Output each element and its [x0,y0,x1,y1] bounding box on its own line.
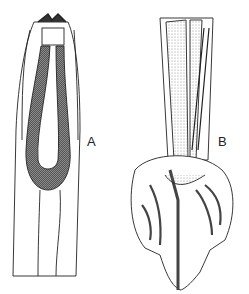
panel-label-b: B [218,134,227,149]
panel-label-a: A [87,134,96,149]
panel-b-drawing [131,18,233,290]
drawing [0,0,249,294]
panel-a-drawing [13,14,80,276]
figure: A B [0,0,249,294]
